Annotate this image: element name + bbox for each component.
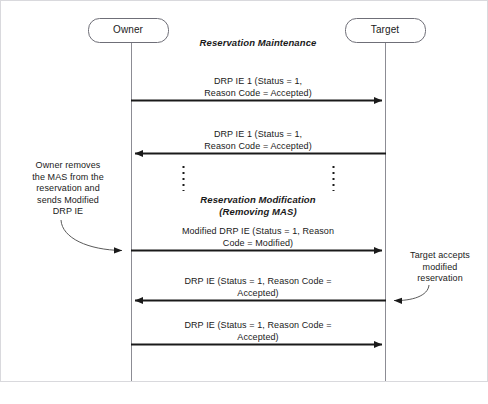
message-label-3: Modified DRP IE (Status = 1, Reason Code… <box>152 226 364 249</box>
sequence-diagram-canvas: Owner Target Reservation Maintenance DRP… <box>0 0 488 404</box>
message-label-5: DRP IE (Status = 1, Reason Code = Accept… <box>152 320 364 343</box>
message-label-2: DRP IE 1 (Status = 1, Reason Code = Acce… <box>158 129 358 152</box>
leader-line-target-note <box>394 285 429 301</box>
note-owner-removes-mas: Owner removes the MAS from the reservati… <box>14 160 122 218</box>
note-target-accepts: Target accepts modified reservation <box>396 250 484 285</box>
leader-line-owner-note <box>61 220 122 251</box>
actor-label-target: Target <box>345 24 425 36</box>
message-label-1: DRP IE 1 (Status = 1, Reason Code = Acce… <box>158 76 358 99</box>
phase-title-reservation-modification: Reservation Modification (Removing MAS) <box>182 194 334 217</box>
actor-label-owner: Owner <box>88 24 168 36</box>
message-label-4: DRP IE (Status = 1, Reason Code = Accept… <box>152 276 364 299</box>
phase-title-reservation-maintenance: Reservation Maintenance <box>182 37 334 49</box>
